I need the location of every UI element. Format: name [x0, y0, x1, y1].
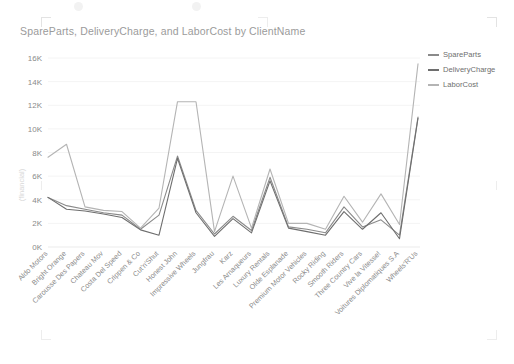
chart-legend[interactable]: SparePartsDeliveryChargeLaborCost — [428, 50, 495, 95]
y-axis-tick-label: 12K — [28, 101, 43, 110]
series-line-laborcost[interactable] — [48, 64, 418, 232]
y-axis-tick-label: 4K — [32, 196, 42, 205]
legend-label: DeliveryCharge — [443, 65, 495, 74]
y-axis-tick-label: 10K — [28, 125, 43, 134]
legend-item-laborcost[interactable]: LaborCost — [428, 80, 495, 89]
x-axis-tick-labels: Aldo MotorsBright OrangeCarousse Des Pap… — [16, 249, 420, 317]
y-axis-tick-label: 6K — [32, 172, 42, 181]
legend-label: LaborCost — [443, 80, 478, 89]
y-axis-tick-label: 16K — [28, 54, 43, 63]
y-axis-title: (financial) — [17, 168, 26, 201]
chart-visual-container[interactable]: SpareParts, DeliveryCharge, and LaborCos… — [0, 0, 514, 364]
y-axis-tick-labels: 16K14K12K10K8K6K4K2K0K — [28, 54, 43, 252]
y-axis-tick-label: 8K — [32, 149, 42, 158]
series-lines[interactable] — [48, 64, 418, 239]
y-axis-tick-label: 2K — [32, 219, 42, 228]
legend-item-deliverycharge[interactable]: DeliveryCharge — [428, 65, 495, 74]
legend-item-spareparts[interactable]: SpareParts — [428, 50, 495, 59]
legend-label: SpareParts — [443, 50, 481, 59]
legend-swatch-icon — [428, 54, 439, 56]
legend-swatch-icon — [428, 69, 439, 71]
y-axis-tick-label: 14K — [28, 78, 43, 87]
legend-swatch-icon — [428, 84, 439, 86]
series-line-deliverycharge[interactable] — [48, 118, 418, 238]
